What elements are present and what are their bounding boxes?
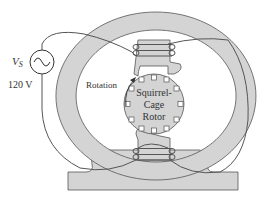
rotor-label-line2: Cage [144, 99, 165, 110]
rotation-label: Rotation [86, 80, 117, 90]
rotor-label-line3: Rotor [143, 111, 166, 122]
source-voltage-label: 120 V [8, 79, 33, 90]
rotor-label-line1: Squirrel- [136, 87, 172, 98]
source-symbol-label: VS [12, 55, 23, 69]
motor-diagram: VS 120 V Rotation Squirrel- Cage Rotor [0, 0, 259, 209]
